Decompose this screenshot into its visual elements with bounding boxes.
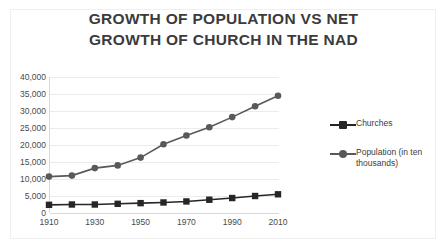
data-point-marker bbox=[115, 201, 121, 207]
data-point-marker bbox=[69, 172, 76, 179]
legend-item-churches[interactable]: Churches bbox=[330, 118, 440, 131]
data-point-marker bbox=[46, 202, 52, 208]
data-point-marker bbox=[160, 199, 166, 205]
data-point-marker bbox=[252, 103, 259, 110]
chart-title: GROWTH OF POPULATION VS NET GROWTH OF CH… bbox=[0, 9, 447, 51]
data-point-marker bbox=[69, 201, 75, 207]
legend-label-population: Population (in ten thousands) bbox=[356, 147, 440, 170]
square-marker-icon bbox=[339, 121, 347, 129]
data-point-marker bbox=[183, 198, 189, 204]
data-point-marker bbox=[206, 197, 212, 203]
chart-title-line-2: GROWTH OF CHURCH IN THE NAD bbox=[0, 30, 447, 51]
y-axis-tick-label: 25,000 bbox=[0, 123, 46, 133]
chart-title-line-1: GROWTH OF POPULATION VS NET bbox=[0, 9, 447, 30]
x-axis-tick-label: 1950 bbox=[131, 217, 150, 227]
x-axis-tick-label: 1990 bbox=[223, 217, 242, 227]
x-axis-tick-label: 1910 bbox=[40, 217, 59, 227]
y-axis-labels: 05,00010,00015,00020,00025,00030,00035,0… bbox=[0, 77, 46, 214]
data-point-marker bbox=[114, 162, 121, 169]
data-point-marker bbox=[160, 141, 167, 148]
chart-legend: Churches Population (in ten thousands) bbox=[330, 118, 440, 186]
data-point-marker bbox=[137, 200, 143, 206]
y-axis-tick-label: 40,000 bbox=[0, 72, 46, 82]
y-axis-tick-label: 10,000 bbox=[0, 174, 46, 184]
data-point-marker bbox=[92, 165, 99, 172]
y-axis-tick-label: 30,000 bbox=[0, 106, 46, 116]
data-point-marker bbox=[275, 191, 281, 197]
y-axis-tick-label: 15,000 bbox=[0, 157, 46, 167]
legend-label-churches: Churches bbox=[356, 118, 392, 129]
series-layer bbox=[49, 77, 278, 214]
data-point-marker bbox=[46, 173, 53, 180]
x-axis-tick-label: 1970 bbox=[177, 217, 196, 227]
y-axis-tick-label: 20,000 bbox=[0, 140, 46, 150]
x-axis-tick-label: 1930 bbox=[85, 217, 104, 227]
data-point-marker bbox=[229, 195, 235, 201]
series-line bbox=[49, 96, 278, 177]
x-axis-tick-label: 2010 bbox=[269, 217, 288, 227]
data-point-marker bbox=[229, 114, 236, 121]
legend-marker-churches bbox=[330, 119, 356, 131]
plot-area-wrapper bbox=[49, 77, 278, 214]
data-point-marker bbox=[183, 132, 190, 139]
data-point-marker bbox=[275, 92, 282, 99]
legend-marker-population bbox=[330, 148, 356, 160]
data-point-marker bbox=[92, 201, 98, 207]
data-point-marker bbox=[252, 193, 258, 199]
data-point-marker bbox=[206, 124, 213, 131]
legend-item-population[interactable]: Population (in ten thousands) bbox=[330, 147, 440, 170]
x-axis-labels: 191019301950197019902010 bbox=[49, 217, 278, 231]
y-axis-tick-label: 35,000 bbox=[0, 89, 46, 99]
y-axis-tick-label: 5,000 bbox=[0, 191, 46, 201]
circle-marker-icon bbox=[339, 150, 347, 158]
data-point-marker bbox=[137, 154, 144, 161]
